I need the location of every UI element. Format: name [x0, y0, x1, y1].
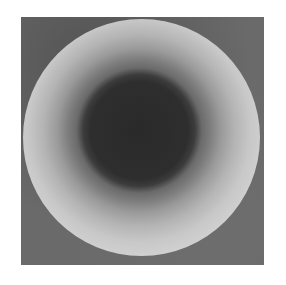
concentric-disk — [23, 19, 260, 256]
image-square — [21, 17, 264, 265]
